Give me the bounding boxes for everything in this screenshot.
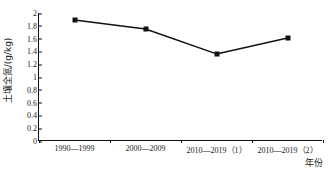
x-axis-tick-mark [252, 140, 253, 143]
line-chart: 土壤全氮/(g/kg) 00.20.40.60.811.21.41.61.82 … [0, 0, 331, 175]
y-axis-tick: 0.6 [27, 98, 39, 107]
y-axis-tick: 1.8 [27, 21, 39, 30]
y-axis-tick-label: 0.8 [27, 85, 39, 94]
x-axis-tick-mark [181, 140, 182, 143]
y-axis-tick-label: 0.2 [27, 124, 39, 133]
y-axis-tick: 0.2 [27, 124, 39, 133]
data-point-marker [214, 51, 219, 56]
y-axis-title-label: 土壤全氮/(g/kg) [2, 37, 15, 103]
x-axis-title: 年份 [305, 156, 323, 169]
x-axis-tick-label: 2010—2019（1） [187, 144, 247, 155]
x-axis-tick-mark [39, 140, 40, 143]
x-axis-tick-mark [110, 140, 111, 143]
data-point-marker [285, 35, 290, 40]
y-axis-tick: 1.6 [27, 34, 39, 43]
y-axis-tick-label: 0.4 [27, 111, 39, 120]
y-axis-tick: 0.8 [27, 85, 39, 94]
x-axis-tick-label: 1990—1999 [55, 144, 95, 153]
data-point-marker [72, 18, 77, 23]
x-axis-tick-label: 2000—2009 [126, 144, 166, 153]
y-axis-tick: 1.2 [27, 60, 39, 69]
y-axis-tick-label: 0.6 [27, 98, 39, 107]
x-axis-tick-mark [323, 140, 324, 143]
data-point-marker [143, 27, 148, 32]
y-axis-tick-label: 1.4 [27, 47, 39, 56]
plot-area: 00.20.40.60.811.21.41.61.82 1990—1999200… [38, 13, 322, 141]
y-axis-tick: 1.4 [27, 47, 39, 56]
y-axis-tick-label: 1.6 [27, 34, 39, 43]
y-axis-tick-label: 1.8 [27, 21, 39, 30]
y-axis-tick: 0.4 [27, 111, 39, 120]
y-axis-tick-label: 1.2 [27, 60, 39, 69]
x-axis-tick-label: 2010—2019（2） [258, 144, 318, 155]
y-axis-title: 土壤全氮/(g/kg) [0, 0, 16, 140]
series-line [39, 13, 322, 140]
